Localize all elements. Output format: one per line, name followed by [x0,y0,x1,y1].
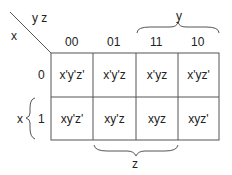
y-brace-label: y [176,10,182,22]
z-brace-label: z [132,158,138,170]
cell-x0-yz00: x'y'z' [51,53,93,97]
x-brace-label: x [17,113,23,125]
row-header-1: 1 [38,113,45,125]
cell-x0-yz01: x'y'z [93,53,136,97]
cell-x1-yz00: xy'z' [51,97,93,140]
col-vars-label: y z [32,12,47,24]
y-brace [137,22,219,33]
col-header-01: 01 [107,36,120,48]
z-brace [94,145,178,156]
cell-x0-yz11: x'yz [136,53,178,97]
cell-x0-yz10: x'yz' [178,53,219,97]
row-header-0: 0 [38,69,45,81]
col-header-00: 00 [65,36,78,48]
cell-x1-yz10: xyz' [178,97,219,140]
cell-x1-yz11: xyz [136,97,178,140]
row-var-label: x [11,30,17,42]
col-header-11: 11 [150,36,162,48]
col-header-10: 10 [191,36,204,48]
cell-x1-yz01: xy'z [93,97,136,140]
x-brace [26,98,35,139]
